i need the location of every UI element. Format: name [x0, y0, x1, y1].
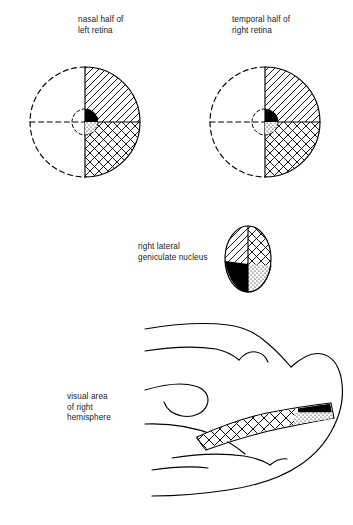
cortex-diagram — [145, 324, 342, 496]
cortex-sulcus-1 — [145, 347, 239, 360]
cortex-sulcus-6 — [152, 467, 208, 470]
label-nasal-half-left-retina: nasal half of left retina — [78, 15, 123, 36]
right-retina-diagram — [210, 66, 322, 179]
label-right-lateral-geniculate-nucleus: right lateral geniculate nucleus — [138, 242, 208, 263]
label-temporal-half-right-retina: temporal half of right retina — [232, 15, 290, 36]
cortex-superior-contour — [145, 324, 291, 367]
cortex-sulcus-2 — [239, 352, 268, 362]
left-retina-diagram — [30, 66, 142, 179]
lgn-diagram — [224, 225, 273, 293]
label-visual-area-right-hemisphere: visual area of right hemisphere — [67, 392, 111, 424]
cortex-sulcus-5 — [270, 459, 287, 465]
cortex-parieto-occipital-sulcus — [145, 384, 208, 416]
calcarine-pole-black — [298, 398, 342, 413]
cortex-sulcus-4 — [172, 454, 270, 465]
anatomy-figure: nasal half of left retina temporal half … — [0, 0, 353, 525]
